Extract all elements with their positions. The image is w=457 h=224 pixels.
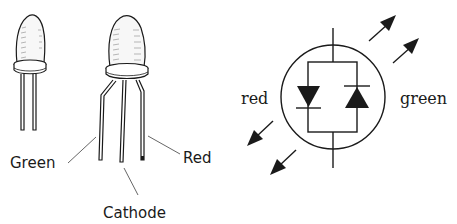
two-lead-led-drawing <box>14 15 46 130</box>
label-green-diode: green <box>400 89 447 108</box>
bicolor-led-schematic <box>281 28 385 168</box>
red-diode-icon <box>297 86 320 107</box>
label-green-lead: Green <box>10 154 55 172</box>
label-red-lead: Red <box>183 149 212 167</box>
label-cathode-lead: Cathode <box>103 204 166 222</box>
three-lead-led-drawing <box>99 16 148 162</box>
bicolor-led-diagram: Green Red Cathode red green <box>0 0 457 224</box>
label-red-diode: red <box>241 89 268 108</box>
green-diode-icon <box>345 87 369 108</box>
